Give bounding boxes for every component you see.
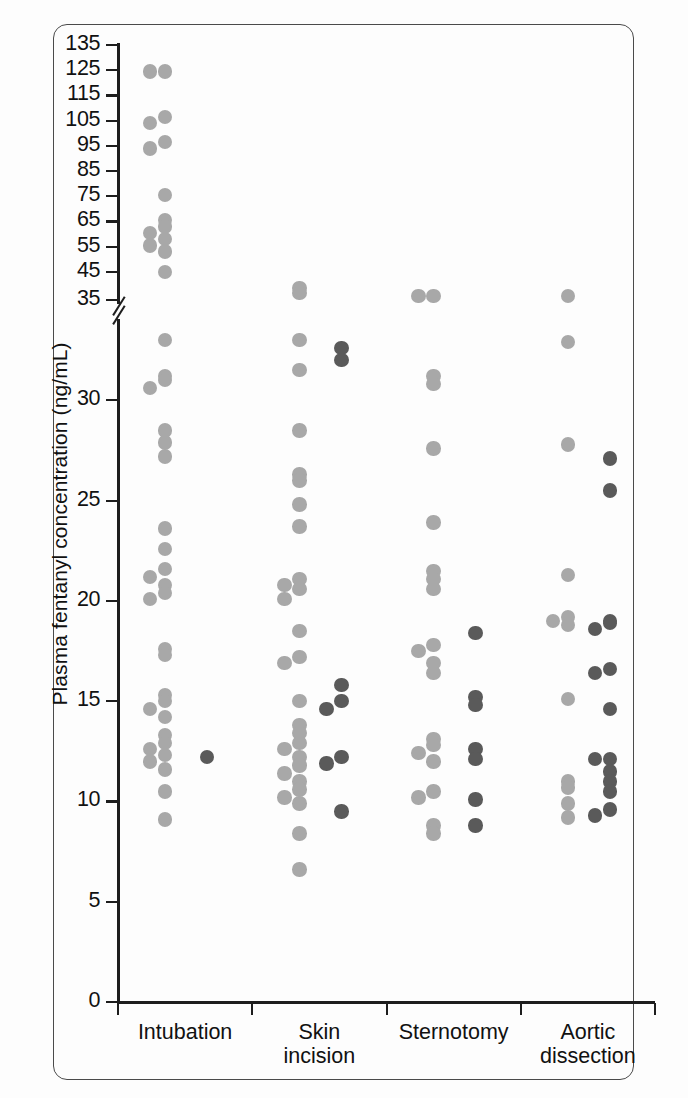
data-point-light bbox=[292, 736, 306, 750]
y-tick-label: 75 bbox=[40, 184, 100, 206]
data-point-light bbox=[426, 754, 440, 768]
data-point-dark bbox=[603, 662, 617, 676]
data-point-dark bbox=[468, 818, 482, 832]
data-point-light bbox=[277, 578, 291, 592]
y-axis-title: Plasma fentanyl concentration (ng/mL) bbox=[48, 304, 72, 744]
data-point-light bbox=[158, 521, 172, 535]
y-tick-label: 5 bbox=[40, 890, 100, 912]
data-point-light bbox=[292, 363, 306, 377]
scatter-plot: Plasma fentanyl concentration (ng/mL) 05… bbox=[0, 0, 688, 1098]
y-tick-label: 95 bbox=[40, 134, 100, 156]
data-point-light bbox=[411, 644, 425, 658]
data-point-light bbox=[158, 244, 172, 258]
y-tick bbox=[106, 1001, 117, 1003]
data-point-light bbox=[143, 238, 157, 252]
y-tick-label: 20 bbox=[40, 589, 100, 611]
data-point-light bbox=[292, 650, 306, 664]
y-tick bbox=[106, 145, 117, 147]
data-point-light bbox=[277, 592, 291, 606]
x-axis-label-line: dissection bbox=[503, 1044, 673, 1068]
y-tick-label: 25 bbox=[40, 489, 100, 511]
y-tick bbox=[106, 195, 117, 197]
data-point-light bbox=[561, 796, 575, 810]
data-point-dark bbox=[588, 622, 602, 636]
data-point-light bbox=[292, 423, 306, 437]
data-point-light bbox=[158, 812, 172, 826]
data-point-light bbox=[158, 784, 172, 798]
data-point-light bbox=[292, 758, 306, 772]
y-tick bbox=[106, 271, 117, 273]
data-point-light bbox=[292, 624, 306, 638]
y-tick bbox=[106, 120, 117, 122]
y-tick-label: 125 bbox=[40, 58, 100, 80]
y-tick-label: 105 bbox=[40, 109, 100, 131]
y-tick bbox=[106, 94, 117, 96]
data-point-light bbox=[158, 449, 172, 463]
data-point-light bbox=[158, 586, 172, 600]
data-point-dark bbox=[468, 626, 482, 640]
data-point-light bbox=[158, 648, 172, 662]
data-point-light bbox=[158, 435, 172, 449]
data-point-dark bbox=[334, 694, 348, 708]
y-tick-label: 65 bbox=[40, 209, 100, 231]
data-point-light bbox=[292, 582, 306, 596]
data-point-dark bbox=[200, 750, 214, 764]
data-point-dark bbox=[319, 702, 333, 716]
data-point-dark bbox=[603, 702, 617, 716]
data-point-light bbox=[426, 289, 440, 303]
x-tick bbox=[251, 1003, 253, 1015]
data-point-dark bbox=[588, 752, 602, 766]
data-point-light bbox=[143, 116, 157, 130]
data-point-light bbox=[158, 64, 172, 78]
data-point-light bbox=[426, 666, 440, 680]
y-tick-label: 30 bbox=[40, 388, 100, 410]
data-point-light bbox=[143, 141, 157, 155]
data-point-light bbox=[292, 333, 306, 347]
data-point-dark bbox=[603, 616, 617, 630]
y-tick-label: 45 bbox=[40, 260, 100, 282]
data-point-light bbox=[143, 570, 157, 584]
data-point-dark bbox=[468, 792, 482, 806]
data-point-dark bbox=[334, 804, 348, 818]
y-tick-label: 15 bbox=[40, 689, 100, 711]
data-point-light bbox=[426, 784, 440, 798]
data-point-dark bbox=[588, 666, 602, 680]
data-point-light bbox=[143, 754, 157, 768]
data-point-light bbox=[561, 437, 575, 451]
data-point-light bbox=[426, 377, 440, 391]
data-point-light bbox=[561, 692, 575, 706]
y-axis-line bbox=[117, 43, 120, 1004]
data-point-dark bbox=[334, 750, 348, 764]
data-point-light bbox=[158, 542, 172, 556]
data-point-light bbox=[411, 790, 425, 804]
data-point-light bbox=[292, 782, 306, 796]
data-point-light bbox=[143, 702, 157, 716]
x-tick bbox=[386, 1003, 388, 1015]
data-point-light bbox=[426, 515, 440, 529]
data-point-light bbox=[292, 796, 306, 810]
data-point-light bbox=[411, 746, 425, 760]
data-point-light bbox=[158, 188, 172, 202]
data-point-light bbox=[158, 135, 172, 149]
data-point-light bbox=[158, 710, 172, 724]
y-tick bbox=[106, 220, 117, 222]
data-point-light bbox=[426, 441, 440, 455]
data-point-light bbox=[292, 862, 306, 876]
data-point-light bbox=[411, 289, 425, 303]
data-point-light bbox=[158, 694, 172, 708]
data-point-dark bbox=[468, 752, 482, 766]
data-point-light bbox=[158, 333, 172, 347]
y-tick bbox=[106, 44, 117, 46]
data-point-dark bbox=[468, 698, 482, 712]
figure-panel: Plasma fentanyl concentration (ng/mL) 05… bbox=[0, 0, 688, 1098]
x-axis-label-line: Aortic bbox=[503, 1020, 673, 1044]
y-tick-label: 55 bbox=[40, 235, 100, 257]
y-tick bbox=[106, 246, 117, 248]
data-point-light bbox=[561, 289, 575, 303]
data-point-light bbox=[277, 656, 291, 670]
x-axis-label-line: incision bbox=[234, 1044, 404, 1068]
y-tick bbox=[106, 500, 117, 502]
data-point-light bbox=[426, 738, 440, 752]
data-point-light bbox=[292, 826, 306, 840]
y-tick bbox=[106, 700, 117, 702]
